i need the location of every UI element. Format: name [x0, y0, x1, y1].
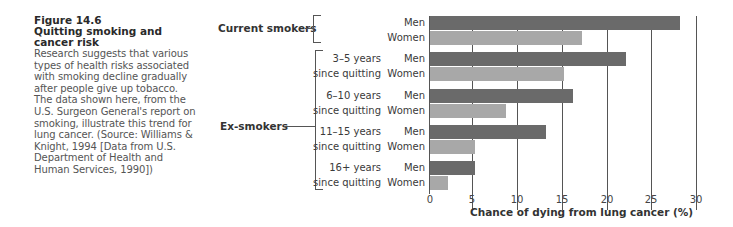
bar-women-0	[430, 31, 582, 45]
bar-men-2	[430, 89, 573, 103]
gridline-30	[696, 16, 697, 210]
sex-label-women: Women	[370, 32, 425, 43]
bar-women-1	[430, 67, 564, 81]
row-label-years: 6–10 years	[300, 90, 381, 101]
bar-women-2	[430, 104, 506, 118]
bar-men-0	[430, 16, 680, 30]
x-tick-20: 20	[601, 194, 614, 205]
sex-label-men: Men	[370, 17, 425, 28]
x-tick-0: 0	[427, 194, 433, 205]
x-tick-10: 10	[511, 194, 524, 205]
bar-men-1	[430, 52, 626, 66]
current-smokers-bracket	[313, 15, 321, 43]
group-label-ex-smokers: Ex-smokers	[220, 120, 288, 132]
row-label-years: 11–15 years	[300, 126, 381, 137]
gridline-20	[607, 16, 608, 210]
row-label-since-quitting: since quitting	[300, 177, 381, 188]
gridline-15	[562, 16, 563, 210]
row-label-since-quitting: since quitting	[300, 105, 381, 116]
x-tick-5: 5	[469, 194, 475, 205]
row-label-years: 16+ years	[300, 162, 381, 173]
bar-women-3	[430, 140, 475, 154]
row-label-since-quitting: since quitting	[300, 68, 381, 79]
x-tick-25: 25	[645, 194, 658, 205]
bar-men-4	[430, 161, 475, 175]
group-label-current-smokers: Current smokers	[218, 22, 316, 34]
x-tick-30: 30	[690, 194, 703, 205]
x-axis-label: Chance of dying from lung cancer (%)	[470, 206, 693, 218]
gridline-25	[651, 16, 652, 210]
x-tick-15: 15	[556, 194, 569, 205]
bar-women-4	[430, 176, 448, 190]
bar-men-3	[430, 125, 546, 139]
bar-chart: 0 5 10 15 20 25 30 Chance of dying from …	[0, 0, 733, 227]
gridline-10	[517, 16, 518, 210]
row-label-since-quitting: since quitting	[300, 141, 381, 152]
current-smokers-connector	[305, 28, 313, 29]
row-label-years: 3–5 years	[300, 53, 381, 64]
